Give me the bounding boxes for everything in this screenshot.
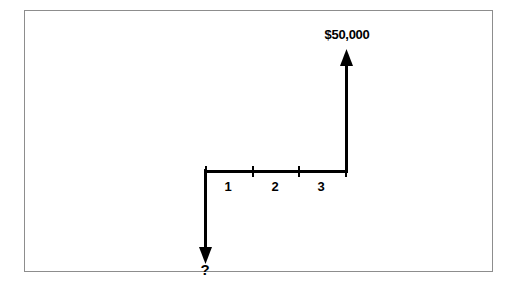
timeline-tick-2 <box>298 166 300 177</box>
period-label-2: 2 <box>263 179 287 194</box>
cash-flow-timeline-figure: 1 2 3 $50,000 ? <box>0 0 515 284</box>
inflow-arrow-up-icon <box>339 49 354 173</box>
timeline-tick-1 <box>252 166 254 177</box>
timeline-axis <box>205 170 347 173</box>
outflow-arrow-down-icon <box>198 169 213 264</box>
period-label-1: 1 <box>216 179 240 194</box>
figure-frame: 1 2 3 $50,000 ? <box>24 10 493 272</box>
period-label-3: 3 <box>309 179 333 194</box>
inflow-amount-label: $50,000 <box>307 27 387 43</box>
outflow-unknown-label: ? <box>185 261 225 278</box>
